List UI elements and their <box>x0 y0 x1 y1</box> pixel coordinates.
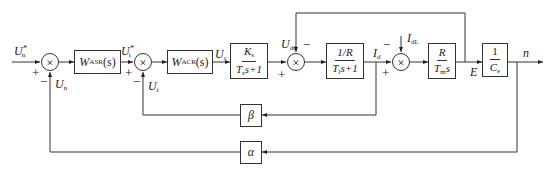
armature-current-label: Id <box>373 47 381 61</box>
acr-main: W <box>171 55 181 70</box>
multiply-icon: × <box>46 56 53 69</box>
sum3-minus: − <box>303 38 310 51</box>
converter-num-sub: s <box>251 51 254 59</box>
converter-den-tail: s+1 <box>245 63 262 75</box>
control-voltage-label: Uc <box>215 48 227 62</box>
current-ref-sub: i <box>129 51 131 59</box>
ud0-main: U <box>281 37 290 51</box>
sum3-plus: + <box>278 68 285 81</box>
acr-tail: (s) <box>196 55 209 70</box>
multiply-icon: × <box>139 56 146 69</box>
alpha-label: α <box>248 145 254 160</box>
speed-fb-label: Un <box>55 78 67 92</box>
armature-den-tail: s+1 <box>340 62 357 74</box>
summing-junction-speed: × <box>41 53 59 71</box>
armature-block: 1/R Tls+1 <box>326 43 364 79</box>
converter-block: Ks Tss+1 <box>230 43 268 79</box>
asr-main: W <box>79 55 89 70</box>
ud0-sub: d0 <box>290 44 297 52</box>
emf-block: 1 Ce <box>482 43 508 77</box>
emf-num: 1 <box>490 46 500 60</box>
current-ref-label: U*i <box>121 45 131 59</box>
speed-output-label: n <box>523 47 529 59</box>
acr-sub: ACR <box>181 58 195 66</box>
speed-ref-sub: n <box>22 51 26 59</box>
speed-fb-sub: n <box>64 84 68 92</box>
acr-block: WACR(s) <box>167 50 213 74</box>
current-fb-main: U <box>148 79 157 93</box>
multiply-icon: × <box>397 56 404 69</box>
armature-num: 1/R <box>335 47 354 61</box>
mechanical-den-tail: s <box>446 62 450 74</box>
current-fb-sub: i <box>157 86 159 94</box>
current-fb-label: Ui <box>148 80 159 94</box>
uc-main: U <box>215 47 224 61</box>
sum1-plus: + <box>32 66 39 79</box>
sum2-plus: + <box>125 66 132 79</box>
beta-label: β <box>248 108 254 123</box>
multiply-icon: × <box>292 56 299 69</box>
emf-den: C <box>490 61 497 73</box>
emf-den-sub: e <box>497 67 500 75</box>
asr-block: WASR(s) <box>74 50 121 74</box>
uc-sub: c <box>224 54 227 62</box>
sum4-minus: − <box>383 38 390 51</box>
back-emf-label: E <box>470 66 477 78</box>
sum1-minus: − <box>40 75 47 88</box>
speed-ref-label: U*n <box>14 45 25 59</box>
summing-junction-load: × <box>392 53 410 71</box>
speed-feedback-block: α <box>240 141 262 164</box>
summing-junction-voltage: × <box>287 53 305 71</box>
sum4-plus: + <box>382 66 389 79</box>
connection-lines <box>0 0 545 173</box>
sum2-minus: − <box>133 75 140 88</box>
summing-junction-current: × <box>134 53 152 71</box>
id-sub: d <box>377 53 381 61</box>
idl-sub: dL <box>411 38 419 46</box>
mechanical-block: R Tms <box>428 43 456 79</box>
rectifier-voltage-label: Ud0 <box>281 38 297 52</box>
asr-sub: ASR <box>89 58 103 66</box>
mechanical-num: R <box>437 47 448 61</box>
speed-fb-main: U <box>55 77 64 91</box>
current-feedback-block: β <box>240 104 262 127</box>
load-current-label: IdL <box>407 32 419 46</box>
asr-tail: (s) <box>103 55 116 70</box>
